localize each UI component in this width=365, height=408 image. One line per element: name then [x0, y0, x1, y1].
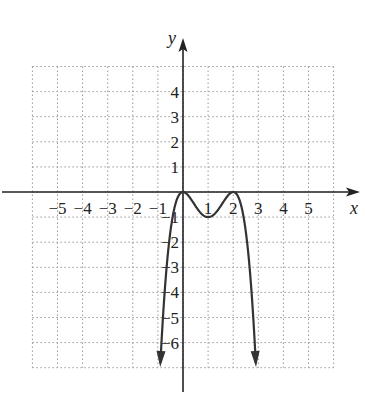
y-tick-label: −6	[161, 334, 179, 353]
y-tick-label: 4	[171, 83, 180, 102]
y-tick-label: −3	[161, 258, 179, 277]
graph: xy−5−4−3−2−1123454321−1−2−3−4−5−6	[0, 0, 365, 408]
y-tick-label: 3	[171, 108, 180, 127]
x-tick-label: 4	[279, 199, 288, 218]
x-tick-label: −2	[124, 199, 142, 218]
x-tick-label: 5	[304, 199, 313, 218]
y-tick-label: −1	[161, 208, 179, 227]
y-tick-label: 1	[171, 158, 180, 177]
x-tick-label: 2	[229, 199, 238, 218]
y-tick-label: 2	[171, 133, 180, 152]
x-tick-label: −4	[74, 199, 93, 218]
x-axis-label: x	[349, 198, 358, 218]
y-axis-label: y	[166, 28, 176, 48]
x-tick-label: 3	[254, 199, 263, 218]
x-tick-label: 1	[204, 199, 213, 218]
x-tick-label: −5	[48, 199, 66, 218]
x-tick-label: −3	[99, 199, 117, 218]
